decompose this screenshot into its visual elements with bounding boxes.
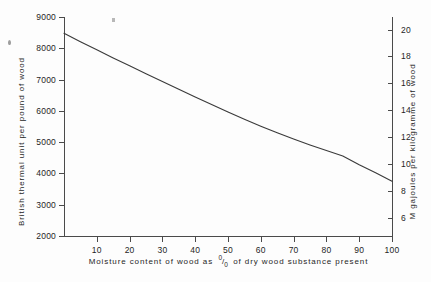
y-axis-left-tick-label: 7000 xyxy=(36,75,56,85)
x-axis-tick-label: 50 xyxy=(223,245,233,255)
x-axis-tick xyxy=(261,237,262,242)
calorific-value-curve xyxy=(64,33,392,181)
y-axis-left-title-text: British thermal unit per pound of wood xyxy=(17,57,26,226)
y-axis-right-tick-label: 12 xyxy=(401,132,411,142)
y-axis-right-tick-label: 8 xyxy=(401,186,406,196)
y-axis-left-tick-label: 8000 xyxy=(36,43,56,53)
x-axis-tick-label: 90 xyxy=(354,245,364,255)
chart-figure: British thermal unit per pound of wood M… xyxy=(0,0,431,282)
y-axis-left-tick-label: 2000 xyxy=(36,231,56,241)
percent-numerator: 0 xyxy=(218,254,222,261)
y-axis-left-tick-label: 6000 xyxy=(36,106,56,116)
x-axis-tick xyxy=(228,237,229,242)
y-axis-right-tick-label: 20 xyxy=(401,25,411,35)
x-axis-tick-label: 100 xyxy=(385,245,400,255)
x-axis-tick-label: 70 xyxy=(289,245,299,255)
y-axis-right-tick-label: 10 xyxy=(401,159,411,169)
y-axis-left-tick-label: 4000 xyxy=(36,168,56,178)
y-axis-left-title: British thermal unit per pound of wood xyxy=(12,0,30,282)
x-axis-tick xyxy=(326,237,327,242)
x-axis-tick xyxy=(130,237,131,242)
y-axis-right-tick-label: 6 xyxy=(401,213,406,223)
data-curve-container xyxy=(64,17,393,237)
x-axis-tick-label: 30 xyxy=(157,245,167,255)
x-axis-tick xyxy=(97,237,98,242)
x-axis-tick xyxy=(195,237,196,242)
x-axis-tick-label: 80 xyxy=(321,245,331,255)
percent-symbol: 0/0 xyxy=(216,257,230,266)
x-axis-tick xyxy=(162,237,163,242)
x-axis-tick-label: 40 xyxy=(190,245,200,255)
plot-area: 20003000400050006000700080009000 6810121… xyxy=(64,17,393,237)
x-axis-tick-label: 20 xyxy=(125,245,135,255)
y-axis-left-tick-label: 9000 xyxy=(36,12,56,22)
y-axis-left-tick-label: 3000 xyxy=(36,200,56,210)
percent-denominator: 0 xyxy=(224,260,228,267)
y-axis-right-tick-label: 14 xyxy=(401,105,411,115)
y-axis-left-tick-label: 5000 xyxy=(36,137,56,147)
x-axis-tick xyxy=(359,237,360,242)
y-axis-right-tick-label: 18 xyxy=(401,51,411,61)
x-axis-title-before: Moisture content of wood as xyxy=(89,257,213,266)
x-axis-tick xyxy=(294,237,295,242)
y-axis-right-tick-label: 16 xyxy=(401,78,411,88)
scan-artifact-speck xyxy=(8,40,11,45)
x-axis-title: Moisture content of wood as 0/0 of dry w… xyxy=(64,254,393,267)
x-axis-tick-label: 60 xyxy=(256,245,266,255)
x-axis-tick xyxy=(392,237,393,242)
x-axis-title-after: of dry wood substance present xyxy=(233,257,368,266)
x-axis-tick-label: 10 xyxy=(92,245,102,255)
